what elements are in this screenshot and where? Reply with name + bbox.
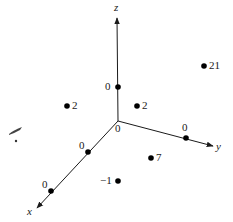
data-point-label: 2 [142,100,148,111]
x-axis-point [48,188,54,194]
data-point-label: 21 [209,60,220,71]
y-axis-point [183,135,189,141]
x-axis-point-label: 0 [42,179,48,190]
data-point [64,103,70,109]
data-point [115,178,121,184]
diagram-canvas: zyx0000022217−1 [0,0,233,222]
data-point [134,103,140,109]
scan-artifact [9,127,22,142]
y-axis-point-label: 0 [182,122,188,133]
y-axis-label: y [216,141,221,152]
y-axis-line [118,121,213,146]
z-axis-point [115,84,121,90]
z-axis-line [117,18,118,121]
data-point-label: 7 [156,152,162,163]
axes-layer [37,18,213,208]
z-axis-label: z [114,2,118,13]
data-point [148,155,154,161]
x-axis-line [37,121,118,208]
data-point [201,63,207,69]
axes-diagram [0,0,233,222]
origin-label: 0 [115,123,121,134]
x-axis-point [85,149,91,155]
data-point-label: 2 [72,100,78,111]
z-axis-point-label: 0 [105,81,111,92]
x-axis-label: x [27,206,32,217]
data-point-label: −1 [100,175,112,186]
x-axis-point-label: 0 [79,140,85,151]
